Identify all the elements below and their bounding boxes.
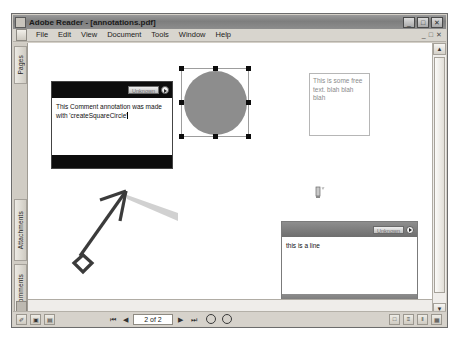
menu-item-view[interactable]: View [76,29,102,41]
minimize-button[interactable]: _ [403,17,415,28]
mdi-restore-button[interactable]: □ [429,30,433,40]
vertical-scrollbar-thumb[interactable] [434,57,445,293]
resize-handle-n[interactable] [213,66,218,71]
snapshot-tool-icon[interactable]: ▣ [30,314,41,325]
line-popup-text[interactable]: this is a line [282,237,417,294]
comment-popup-footer [52,155,172,168]
menu-item-window[interactable]: Window [174,29,211,41]
first-page-button[interactable]: ⏮ [107,314,118,325]
close-button[interactable]: ✕ [431,17,443,28]
resize-handle-nw[interactable] [179,66,184,71]
mdi-minimize-button[interactable]: _ [422,30,426,40]
single-page-icon[interactable]: □ [389,314,400,325]
menu-item-tools[interactable]: Tools [146,29,174,41]
maximize-button[interactable]: □ [417,17,429,28]
comment-popup[interactable]: Unknown This Comment annotation was made… [51,81,173,169]
resize-handle-ne[interactable] [246,66,251,71]
comment-popup-author-chip: Unknown [128,86,169,94]
mdi-close-button[interactable]: ✕ [436,30,442,40]
free-text-annotation[interactable]: This is some free text. blah blah blah [309,73,370,136]
line-popup-titlebar[interactable]: Unknown [282,222,417,237]
sidebar-item-pages[interactable]: Pages [14,46,27,84]
page-navigation: ⏮ ◀ 2 of 2 ▶ ⏭ [107,314,232,325]
resize-handle-w[interactable] [179,100,184,105]
status-bar: ✐ ▣ ▤ ⏮ ◀ 2 of 2 ▶ ⏭ □ ≡ ‖ ▦ [13,311,446,326]
stamp-icon[interactable] [315,186,327,199]
document-icon [16,29,27,41]
comment-popup-titlebar[interactable]: Unknown [52,82,172,98]
title-bar: Adobe Reader - [annotations.pdf] _ □ ✕ [13,15,446,29]
select-tool-icon[interactable]: ✐ [16,314,27,325]
close-icon: ✕ [432,18,442,27]
menu-item-edit[interactable]: Edit [53,29,76,41]
scroll-up-icon[interactable]: ▲ [433,43,446,55]
application-window: Adobe Reader - [annotations.pdf] _ □ ✕ F… [11,13,448,328]
menu-item-help[interactable]: Help [211,29,236,41]
continuous-facing-icon[interactable]: ▦ [431,314,442,325]
menu-item-document[interactable]: Document [102,29,146,41]
text-caret [127,112,128,119]
line-popup-author: Unknown [373,226,404,234]
page-number-input[interactable]: 2 of 2 [133,314,173,325]
comment-popup-text-value: This Comment annotation was made with 'c… [56,103,162,119]
popup-menu-icon[interactable] [161,86,169,94]
page-layout-icon[interactable]: ▤ [44,314,55,325]
next-page-button[interactable]: ▶ [175,314,186,325]
last-page-button[interactable]: ⏭ [188,314,199,325]
maximize-icon: □ [418,18,428,27]
page-layout-buttons: □ ≡ ‖ ▦ [389,314,442,325]
line-popup[interactable]: Unknown this is a line [281,221,418,305]
zoom-out-icon[interactable] [206,314,216,324]
resize-handle-se[interactable] [246,134,251,139]
sidebar-item-attachments[interactable]: Attachments [14,199,27,261]
horizontal-scrollbar[interactable] [28,299,432,311]
vertical-scrollbar[interactable]: ▲ ▼ [432,43,446,315]
window-controls: _ □ ✕ [403,17,443,28]
comment-popup-text[interactable]: This Comment annotation was made with 'c… [52,98,172,155]
window-title: Adobe Reader - [annotations.pdf] [29,18,403,27]
resize-handle-e[interactable] [246,100,251,105]
comment-popup-author: Unknown [128,86,159,94]
popup-menu-icon[interactable] [406,226,414,234]
sidebar-item-label-attachments: Attachments [17,211,24,249]
sidebar-item-label-pages: Pages [17,55,24,74]
screenshot-root: Adobe Reader - [annotations.pdf] _ □ ✕ F… [0,0,459,340]
document-viewport: This is some free text. blah blah blah U… [28,43,432,315]
resize-handle-sw[interactable] [179,134,184,139]
facing-icon[interactable]: ‖ [417,314,428,325]
pdf-page: This is some free text. blah blah blah U… [28,43,432,315]
continuous-icon[interactable]: ≡ [403,314,414,325]
adobe-reader-icon [15,17,26,28]
zoom-in-icon[interactable] [222,314,232,324]
menu-item-file[interactable]: File [31,29,53,41]
line-popup-author-chip: Unknown [373,226,414,234]
navigation-tab-strip: Pages Attachments Comments [13,43,28,315]
menu-bar: File Edit View Document Tools Window Hel… [13,29,446,42]
previous-page-button[interactable]: ◀ [120,314,131,325]
minimize-icon: _ [404,18,414,27]
resize-handle-s[interactable] [213,134,218,139]
mdi-window-controls: _ □ ✕ [422,30,442,40]
circle-shape [184,71,247,135]
square-circle-annotation[interactable] [181,68,249,137]
